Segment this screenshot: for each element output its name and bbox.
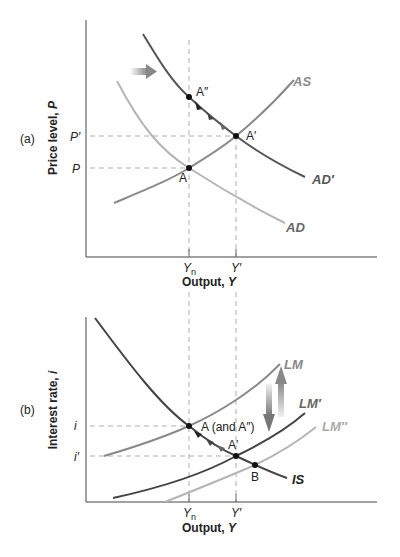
- label-a: A: [179, 171, 187, 185]
- label-a-double: A″: [196, 85, 209, 99]
- label-lm-double: LM″: [322, 419, 348, 434]
- label-ad: AD: [285, 220, 305, 235]
- tick-label-p: P: [72, 162, 80, 176]
- label-lm-prime: LM′: [299, 396, 322, 411]
- is-curve: [95, 318, 287, 478]
- tick-label-pprime: P′: [70, 130, 81, 144]
- label-ad-prime: AD′: [311, 172, 335, 187]
- panel-a: A A′ A″ AS AD′ AD P′ P Yn Y′ Output, Y P…: [20, 20, 377, 289]
- label-a-prime: A′: [246, 129, 257, 143]
- shift-right-arrow-icon: [130, 64, 157, 79]
- y-axis-title: Price level, P: [46, 100, 60, 175]
- dynamic-arrow-icon: [206, 439, 214, 446]
- ad-prime-curve: [143, 34, 305, 177]
- tick-label-iprime: i′: [74, 450, 80, 464]
- tick-label-yprime: Y′: [231, 261, 242, 275]
- point-b: [252, 462, 258, 468]
- label-is: IS: [292, 472, 305, 487]
- point-a-double: [186, 94, 192, 100]
- panel-tag-a: (a): [20, 132, 35, 146]
- figure: A A′ A″ AS AD′ AD P′ P Yn Y′ Output, Y P…: [0, 0, 400, 557]
- lm-double-curve: [165, 427, 316, 502]
- tick-label-yprime: Y′: [231, 506, 242, 520]
- label-a-prime: A′: [228, 438, 239, 452]
- tick-label-i: i: [74, 419, 77, 433]
- point-a-prime: [233, 453, 239, 459]
- tick-label-yn: Yn: [183, 506, 196, 522]
- panel-b: A (and A″) A′ B LM LM′ LM″ IS i i′ Yn Y′…: [20, 317, 377, 535]
- point-a-prime: [233, 133, 239, 139]
- lm-curve: [104, 364, 280, 456]
- point-a: [186, 423, 192, 429]
- dynamic-arrow-icon: [195, 101, 202, 110]
- panel-tag-b: (b): [20, 403, 35, 417]
- label-as: AS: [292, 74, 311, 89]
- label-lm: LM: [284, 357, 304, 372]
- label-a-and-a-double: A (and A″): [201, 420, 255, 434]
- x-axis-title: Output, Y: [182, 521, 237, 535]
- label-b: B: [251, 470, 259, 484]
- x-axis-title: Output, Y: [182, 275, 237, 289]
- dynamic-arrow-icon: [207, 112, 214, 120]
- y-axis-title: Interest rate, i: [46, 370, 60, 449]
